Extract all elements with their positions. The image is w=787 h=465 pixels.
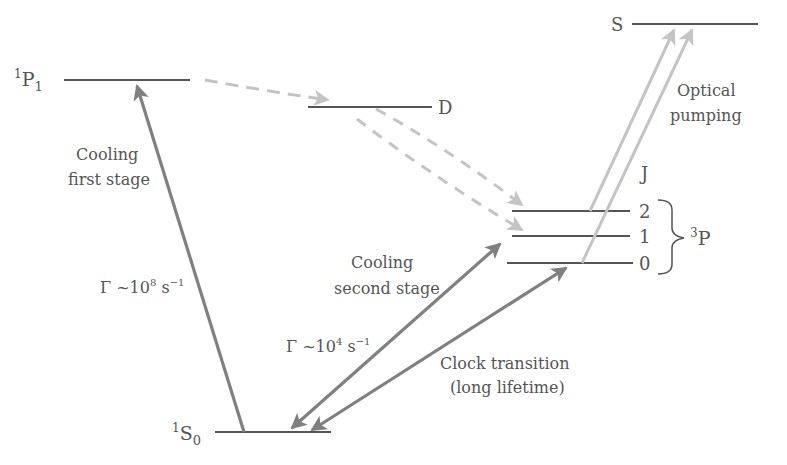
- optical-pumping-label-line1: Optical: [677, 81, 736, 100]
- energy-level-diagram: 1P1 D S J 2 1 0 3P 1S0 Cooling first sta…: [0, 0, 787, 465]
- pump-arrow-3P0-to-S: [582, 30, 692, 263]
- cooling-first-stage-label-line1: Cooling: [76, 145, 138, 164]
- j-value-1: 1: [639, 226, 650, 247]
- level-label-1S0: 1S0: [172, 421, 201, 448]
- clock-transition-label-line1: Clock transition: [440, 354, 569, 373]
- decay-arrow-1P1-to-D: [205, 80, 328, 100]
- pump-arrow-3P2-to-S: [590, 30, 674, 211]
- cooling-second-stage-label-line1: Cooling: [351, 253, 413, 272]
- level-label-1P1: 1P1: [14, 67, 43, 94]
- cooling-first-stage-label-line2: first stage: [68, 170, 150, 189]
- level-label-D: D: [438, 97, 452, 118]
- cooling-second-stage-label-line2: second stage: [334, 279, 440, 298]
- j-value-0: 0: [639, 253, 650, 274]
- decay-arrow-D-to-3P2: [376, 109, 522, 205]
- triplet-brace: [658, 200, 684, 274]
- gamma-second-stage-label: Γ ~104 s−1: [286, 336, 370, 356]
- level-label-S: S: [611, 14, 623, 35]
- j-value-2: 2: [639, 201, 650, 222]
- cooling-first-stage-arrow: [137, 86, 244, 432]
- gamma-first-stage-label: Γ ~108 s−1: [100, 277, 184, 297]
- decay-arrow-D-to-3P1: [357, 119, 522, 230]
- level-label-3P: 3P: [690, 226, 711, 249]
- j-header-label: J: [639, 163, 648, 184]
- optical-pumping-label-line2: pumping: [670, 106, 742, 125]
- clock-transition-label-line2: (long lifetime): [450, 378, 565, 397]
